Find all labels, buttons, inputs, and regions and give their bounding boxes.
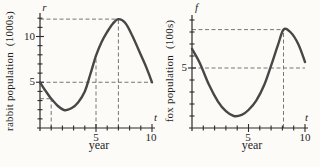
rabbit-y-tick-label-5: 5: [13, 75, 35, 87]
fox-x-tick-label-10: 10: [293, 131, 317, 143]
fox-population-chart: fox population (100s) f 5 5 10 t year: [160, 0, 320, 167]
fox-y-tick-label-5: 5: [165, 61, 187, 73]
rabbit-population-chart: rabbit population (1000s) r 10 5 5 10 t …: [0, 0, 160, 167]
rabbit-y-tick-label-10: 10: [13, 30, 35, 42]
population-curve: [192, 29, 305, 117]
fox-y-axis-symbol: f: [190, 1, 203, 13]
rabbit-y-axis-title: rabbit population (1000s): [3, 8, 17, 134]
rabbit-y-axis-symbol: r: [38, 1, 51, 13]
predator-prey-figure: rabbit population (1000s) r 10 5 5 10 t …: [0, 0, 320, 167]
fox-x-axis-title: year: [222, 139, 282, 152]
population-curve: [40, 19, 152, 110]
rabbit-x-axis-title: year: [69, 139, 129, 152]
fox-x-axis-symbol: t: [301, 111, 312, 123]
